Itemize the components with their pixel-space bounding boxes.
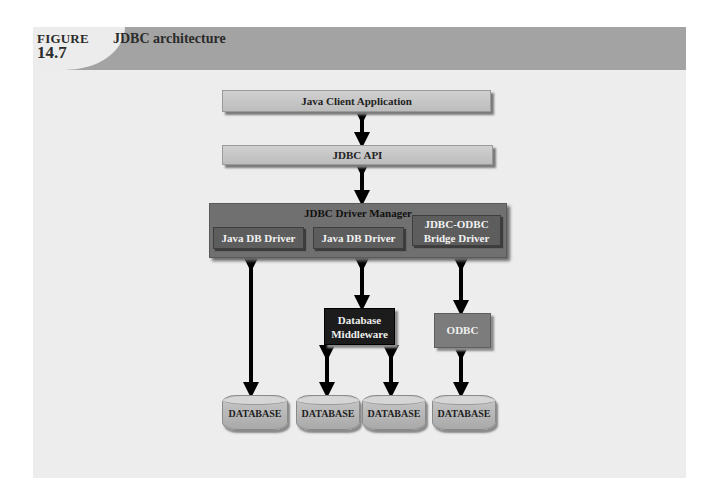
database-2: DATABASE bbox=[296, 395, 360, 430]
java-client-application-box: Java Client Application bbox=[222, 90, 491, 112]
middleware-line1: Database bbox=[325, 313, 394, 327]
middleware-line2: Middleware bbox=[325, 327, 394, 341]
database-4: DATABASE bbox=[432, 395, 496, 430]
java-db-driver-1: Java DB Driver bbox=[213, 227, 304, 249]
database-3: DATABASE bbox=[362, 395, 426, 430]
bridge-driver-line1: JDBC-ODBC bbox=[413, 217, 500, 231]
jdbc-api-box: JDBC API bbox=[222, 145, 493, 165]
database-1: DATABASE bbox=[222, 395, 288, 430]
jdbc-odbc-bridge-driver: JDBC-ODBC Bridge Driver bbox=[412, 215, 501, 246]
odbc-box: ODBC bbox=[434, 313, 491, 348]
java-db-driver-2: Java DB Driver bbox=[313, 227, 404, 249]
database-middleware-box: Database Middleware bbox=[324, 308, 395, 345]
bridge-driver-line2: Bridge Driver bbox=[413, 231, 500, 245]
